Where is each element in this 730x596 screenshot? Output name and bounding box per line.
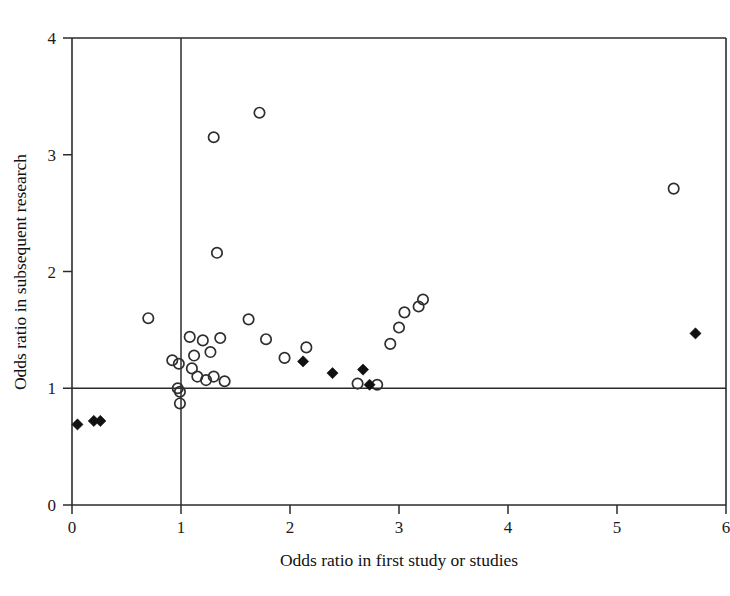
scatter-plot-figure: 0123456 01234 Odds ratio in first study … [0,0,730,596]
data-point-open-circle [243,314,253,324]
x-tick-label: 1 [177,518,186,537]
data-point-open-circle [668,183,678,193]
data-point-open-circle [175,398,185,408]
data-point-open-circle [143,313,153,323]
x-tick-label: 6 [722,518,730,537]
x-tick-label: 5 [613,518,622,537]
data-point-filled-diamond [327,367,338,378]
y-axis-title: Odds ratio in subsequent research [10,154,30,390]
data-point-open-circle [352,378,362,388]
y-tick-label: 2 [48,263,57,282]
data-point-open-circle [212,248,222,258]
data-point-open-circle [385,339,395,349]
data-point-open-circle [261,334,271,344]
y-tick-label: 0 [48,496,57,515]
y-tick-label: 3 [48,146,57,165]
data-point-open-circle [209,132,219,142]
data-point-open-circle [399,307,409,317]
x-axis-title: Odds ratio in first study or studies [280,550,518,570]
reference-lines [72,38,726,505]
data-point-filled-diamond [72,419,83,430]
data-point-open-circle [189,350,199,360]
data-point-filled-diamond [95,415,106,426]
x-tick-label: 4 [504,518,513,537]
x-tick-label: 0 [68,518,77,537]
data-point-open-circle [219,376,229,386]
plot-canvas: 0123456 01234 Odds ratio in first study … [0,0,730,596]
data-point-open-circle [185,332,195,342]
data-point-open-circle [254,108,264,118]
x-tick-label: 2 [286,518,295,537]
plot-frame [72,38,726,505]
data-point-open-circle [198,335,208,345]
y-tick-label: 1 [48,379,57,398]
y-tick-label: 4 [48,29,57,48]
data-point-open-circle [301,342,311,352]
data-point-filled-diamond [690,328,701,339]
data-points [72,108,701,431]
data-point-open-circle [279,353,289,363]
x-tick-label: 3 [395,518,404,537]
data-point-open-circle [215,333,225,343]
data-point-filled-diamond [297,356,308,367]
y-axis-ticks: 01234 [48,29,73,515]
data-point-filled-diamond [357,364,368,375]
data-point-open-circle [205,347,215,357]
data-point-open-circle [394,322,404,332]
x-axis-ticks: 0123456 [68,505,730,537]
